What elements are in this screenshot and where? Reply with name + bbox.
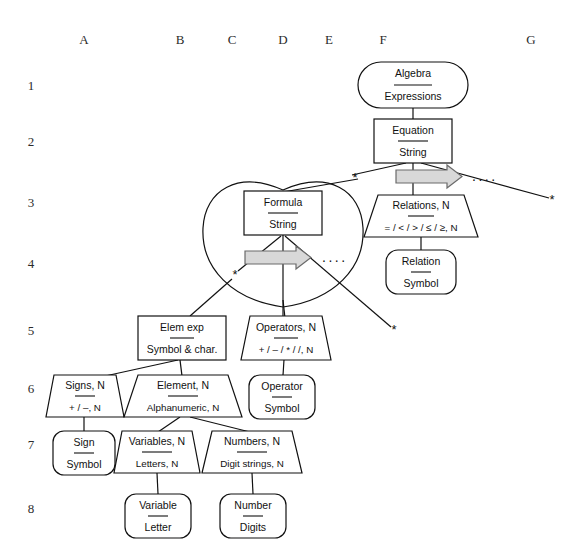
- recursion-arrow-top: [396, 165, 462, 188]
- multiplicity-star-3: *: [232, 267, 237, 282]
- edge-operators-operator: [283, 360, 284, 375]
- edge-element-variables: [158, 417, 180, 432]
- node-relation-subtitle: Symbol: [403, 277, 438, 289]
- node-relations-subtitle: = / < / > / ≤ / ≥, N: [384, 222, 457, 233]
- node-variable[interactable]: Variable Letter: [125, 494, 191, 538]
- node-numbers-title: Numbers, N: [224, 435, 280, 447]
- node-elem-exp[interactable]: Elem exp Symbol & char.: [138, 316, 226, 360]
- node-algebra-title: Algebra: [395, 67, 431, 79]
- node-numbers-subtitle: Digit strings, N: [220, 458, 284, 469]
- node-formula-subtitle: String: [269, 218, 297, 230]
- row-header-1: 1: [22, 78, 40, 94]
- recursion-arrow-bottom: [245, 246, 311, 269]
- node-equation-subtitle: String: [399, 146, 427, 158]
- node-elem-exp-title: Elem exp: [160, 321, 204, 333]
- node-variables[interactable]: Variables, N Letters, N: [114, 431, 200, 473]
- node-operators-subtitle: + / – / * / /, N: [259, 344, 314, 355]
- column-header-a: A: [73, 32, 95, 48]
- ellipsis-dots-top: ....: [472, 168, 498, 184]
- row-header-7: 7: [22, 437, 40, 453]
- node-algebra-subtitle: Expressions: [384, 90, 441, 102]
- column-header-g: G: [520, 32, 542, 48]
- node-operator[interactable]: Operator Symbol: [249, 375, 315, 419]
- node-element[interactable]: Element, N Alphanumeric, N: [124, 375, 242, 417]
- node-formula[interactable]: Formula String: [244, 191, 322, 235]
- edge-numbers-number: [252, 473, 253, 494]
- row-header-5: 5: [22, 323, 40, 339]
- node-algebra[interactable]: Algebra Expressions: [358, 62, 468, 108]
- multiplicity-star-1: *: [352, 170, 357, 185]
- node-variables-subtitle: Letters, N: [136, 458, 178, 469]
- diagram-canvas: Algebra Expressions Equation String Rela…: [0, 0, 568, 552]
- node-element-title: Element, N: [157, 379, 209, 391]
- node-relations[interactable]: Relations, N = / < / > / ≤ / ≥, N: [364, 195, 478, 237]
- column-header-f: F: [372, 32, 394, 48]
- node-formula-title: Formula: [264, 196, 303, 208]
- multiplicity-star-2: *: [549, 192, 554, 207]
- node-number-title: Number: [234, 499, 272, 511]
- node-element-subtitle: Alphanumeric, N: [147, 402, 219, 413]
- node-elem-exp-subtitle: Symbol & char.: [147, 343, 218, 355]
- node-signs[interactable]: Signs, N + / –, N: [46, 375, 124, 417]
- node-sign-title: Sign: [73, 436, 94, 448]
- node-relation-title: Relation: [402, 255, 441, 267]
- node-operator-subtitle: Symbol: [264, 402, 299, 414]
- edge-element-numbers: [190, 417, 250, 432]
- column-header-b: B: [169, 32, 191, 48]
- node-operators-title: Operators, N: [256, 321, 316, 333]
- edge-variables-variable: [157, 473, 158, 494]
- node-operators[interactable]: Operators, N + / – / * / /, N: [241, 316, 331, 360]
- node-number-subtitle: Digits: [240, 521, 266, 533]
- hierarchy-diagram: Algebra Expressions Equation String Rela…: [0, 0, 568, 552]
- node-signs-title: Signs, N: [65, 379, 105, 391]
- row-header-8: 8: [22, 501, 40, 517]
- node-variables-title: Variables, N: [129, 435, 185, 447]
- node-operator-title: Operator: [261, 380, 303, 392]
- node-number[interactable]: Number Digits: [220, 494, 286, 538]
- node-relation[interactable]: Relation Symbol: [386, 250, 456, 294]
- node-equation[interactable]: Equation String: [374, 119, 452, 163]
- node-signs-subtitle: + / –, N: [69, 402, 101, 413]
- column-header-c: C: [221, 32, 243, 48]
- edge-star-elemexp: [190, 279, 232, 316]
- node-sign[interactable]: Sign Symbol: [53, 431, 115, 475]
- node-equation-title: Equation: [392, 124, 434, 136]
- node-relations-title: Relations, N: [392, 199, 449, 211]
- column-header-d: D: [272, 32, 294, 48]
- row-header-4: 4: [22, 256, 40, 272]
- multiplicity-star-4: *: [391, 322, 396, 337]
- ellipsis-dots-bottom: ....: [322, 249, 348, 265]
- node-variable-title: Variable: [139, 499, 177, 511]
- row-header-6: 6: [22, 381, 40, 397]
- node-numbers[interactable]: Numbers, N Digit strings, N: [202, 431, 302, 473]
- row-header-2: 2: [22, 134, 40, 150]
- node-sign-subtitle: Symbol: [66, 458, 101, 470]
- row-header-3: 3: [22, 195, 40, 211]
- column-header-e: E: [318, 32, 340, 48]
- edge-elemexp-element: [180, 360, 182, 376]
- node-variable-subtitle: Letter: [145, 521, 172, 533]
